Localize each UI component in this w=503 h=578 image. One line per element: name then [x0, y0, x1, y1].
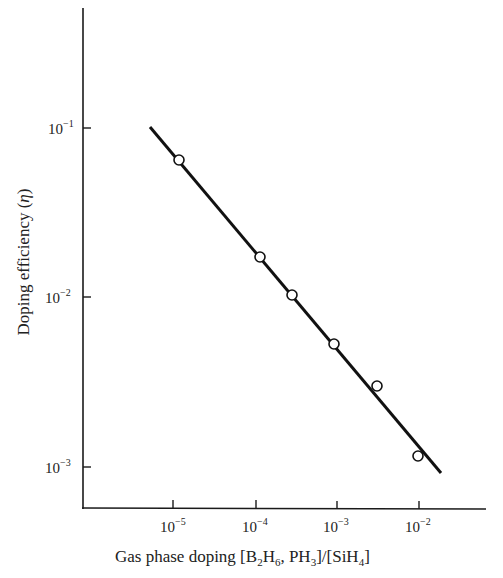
x-tick-labels: 10−5 10−4 10−3 10−2 — [160, 516, 431, 535]
data-point — [255, 252, 265, 262]
y-tick-label: 10−2 — [45, 287, 71, 306]
x-tick-label: 10−2 — [405, 516, 431, 535]
x-tick-label: 10−5 — [160, 516, 186, 535]
y-axis-title: Doping efficiency (η) — [14, 189, 33, 336]
data-point — [174, 155, 184, 165]
data-point — [372, 381, 382, 391]
data-point — [413, 451, 423, 461]
data-point — [329, 339, 339, 349]
y-ticks — [83, 128, 91, 467]
x-axis-line — [82, 508, 486, 509]
x-tick-label: 10−4 — [242, 516, 268, 535]
y-tick-labels: 10−1 10−2 10−3 — [45, 118, 74, 476]
fit-line — [150, 127, 441, 473]
y-tick-label: 10−3 — [45, 457, 71, 476]
x-axis-title: Gas phase doping [B2H6, PH3]/[SiH4] — [115, 547, 370, 568]
data-point — [287, 290, 297, 300]
chart: 10−1 10−2 10−3 10−5 10−4 10−3 10−2 Dopin… — [0, 0, 503, 578]
y-tick-label: 10−1 — [48, 118, 74, 137]
x-tick-label: 10−3 — [323, 516, 349, 535]
